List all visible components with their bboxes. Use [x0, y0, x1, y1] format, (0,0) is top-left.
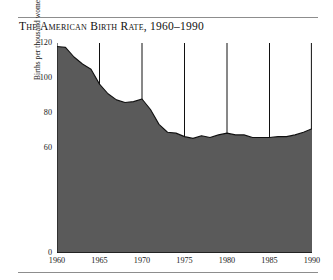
y-axis-title: Births per thousand women 15–44 years ol… — [33, 0, 42, 80]
x-axis-tick-labels: 1960196519701975198019851990 — [57, 256, 312, 270]
area-chart-svg — [57, 43, 312, 253]
x-axis-tick-label: 1985 — [261, 256, 277, 265]
x-axis-tick-label: 1960 — [49, 256, 65, 265]
chart-title: The American Birth Rate, 1960–1990 — [19, 20, 204, 32]
plot-area: Births per thousand women 15–44 years ol… — [57, 43, 312, 253]
x-axis-tick-label: 1990 — [304, 256, 320, 265]
x-axis-tick-label: 1975 — [176, 256, 192, 265]
figure-top-rule — [18, 17, 318, 18]
x-axis-tick-label: 1980 — [219, 256, 235, 265]
y-axis-tick-label: 60 — [44, 143, 52, 152]
birth-rate-figure: The American Birth Rate, 1960–1990 12010… — [0, 0, 333, 280]
figure-bottom-rule — [18, 272, 318, 273]
x-axis-tick-label: 1970 — [134, 256, 150, 265]
x-axis-tick-label: 1965 — [91, 256, 107, 265]
y-axis-tick-label: 80 — [44, 108, 52, 117]
